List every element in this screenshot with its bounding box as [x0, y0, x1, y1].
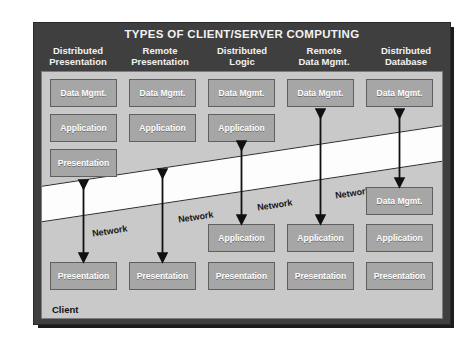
- column-header-remote-presentation: Remote Presentation: [120, 45, 200, 67]
- server-data-mgmt-col2: Data Mgmt.: [129, 79, 196, 107]
- column-header-distributed-database: Distributed Database: [366, 45, 446, 67]
- diagram-title: TYPES OF CLIENT/SERVER COMPUTING: [34, 28, 450, 40]
- client-presentation-col3: Presentation: [208, 262, 275, 290]
- server-data-mgmt-col4: Data Mgmt.: [287, 79, 354, 107]
- client-application-col4: Application: [287, 224, 354, 252]
- network-label-1: Network: [91, 223, 128, 238]
- column-header-distributed-logic: Distributed Logic: [202, 45, 282, 67]
- column-header-line2: Database: [366, 56, 446, 67]
- client-data-mgmt-col5: Data Mgmt.: [366, 187, 433, 215]
- column-header-line1: Distributed: [202, 45, 282, 56]
- client-presentation-col5: Presentation: [366, 262, 433, 290]
- network-label-3: Network: [256, 197, 293, 212]
- column-header-remote-data-mgmt: Remote Data Mgmt.: [284, 45, 364, 67]
- diagram-panel: TYPES OF CLIENT/SERVER COMPUTING Distrib…: [33, 22, 451, 325]
- client-presentation-col2: Presentation: [129, 262, 196, 290]
- column-header-line2: Logic: [202, 56, 282, 67]
- server-application-col2: Application: [129, 114, 196, 142]
- column-header-distributed-presentation: Distributed Presentation: [38, 45, 118, 67]
- architecture-body: Network Network Network Network Data Mgm…: [41, 71, 443, 319]
- network-label-2: Network: [177, 209, 214, 224]
- column-header-line1: Remote: [120, 45, 200, 56]
- server-application-col3: Application: [208, 114, 275, 142]
- client-presentation-col1: Presentation: [50, 262, 117, 290]
- column-header-line2: Presentation: [120, 56, 200, 67]
- server-presentation-col1: Presentation: [50, 149, 117, 177]
- column-header-line1: Distributed: [38, 45, 118, 56]
- client-label: Client: [52, 304, 78, 315]
- column-header-line1: Distributed: [366, 45, 446, 56]
- server-data-mgmt-col3: Data Mgmt.: [208, 79, 275, 107]
- server-application-col1: Application: [50, 114, 117, 142]
- client-application-col3: Application: [208, 224, 275, 252]
- column-header-line2: Data Mgmt.: [284, 56, 364, 67]
- server-data-mgmt-col1: Data Mgmt.: [50, 79, 117, 107]
- column-header-line2: Presentation: [38, 56, 118, 67]
- server-data-mgmt-col5: Data Mgmt.: [366, 79, 433, 107]
- diagram-root: TYPES OF CLIENT/SERVER COMPUTING Distrib…: [0, 0, 471, 347]
- column-header-line1: Remote: [284, 45, 364, 56]
- client-application-col5: Application: [366, 224, 433, 252]
- client-presentation-col4: Presentation: [287, 262, 354, 290]
